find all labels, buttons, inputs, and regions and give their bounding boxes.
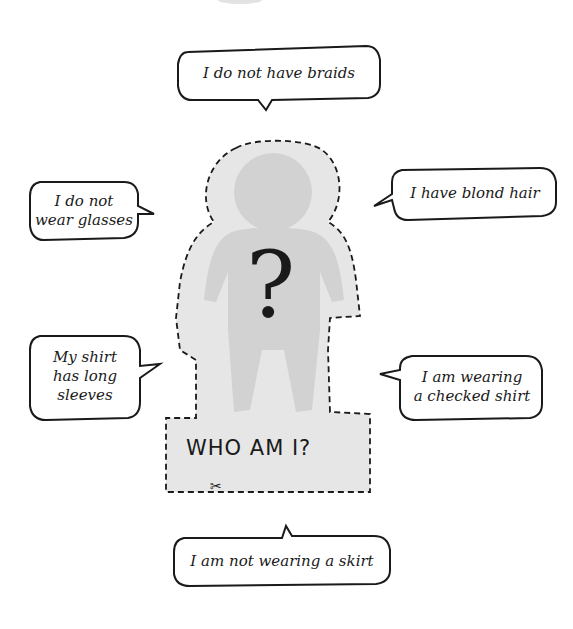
- who-am-i-illustration: ? WHO AM I? ✂ I do not have braids I do …: [0, 0, 573, 629]
- who-am-i-label: WHO AM I?: [186, 436, 311, 460]
- bubble-left-lower-text: My shirt has long sleeves: [30, 348, 140, 405]
- bubble-line: I am not wearing a skirt: [174, 552, 390, 571]
- bubble-top-text: I do not have braids: [178, 64, 380, 83]
- bubble-line: has long: [30, 367, 140, 386]
- bubble-bottom-text: I am not wearing a skirt: [174, 552, 390, 571]
- bubble-left-upper-text: I do not wear glasses: [30, 192, 138, 230]
- top-edge-shape: [218, 0, 262, 4]
- figure-head: [234, 153, 312, 231]
- bubble-right-lower-text: I am wearing a checked shirt: [402, 368, 542, 406]
- question-mark: ?: [246, 240, 295, 332]
- bubble-line: I do not have braids: [178, 64, 380, 83]
- bubble-line: I do not: [30, 192, 138, 211]
- bubble-line: I am wearing: [402, 368, 542, 387]
- bubble-line: sleeves: [30, 386, 140, 405]
- bubble-right-upper-text: I have blond hair: [394, 184, 556, 203]
- bubble-line: a checked shirt: [402, 387, 542, 406]
- bubble-line: My shirt: [30, 348, 140, 367]
- bubble-line: wear glasses: [30, 211, 138, 230]
- scissors-icon: ✂: [210, 478, 222, 494]
- bubble-line: I have blond hair: [394, 184, 556, 203]
